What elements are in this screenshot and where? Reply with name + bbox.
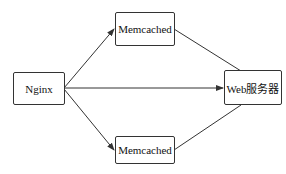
- node-memcached-top-label: Memcached: [118, 23, 172, 35]
- edge-nginx-to-memcached-top: [64, 29, 114, 88]
- node-memcached-bottom-label: Memcached: [118, 144, 172, 156]
- node-memcached-bottom: Memcached: [115, 136, 175, 164]
- node-nginx: Nginx: [13, 72, 65, 105]
- node-nginx-label: Nginx: [25, 83, 53, 95]
- edge-memcached-bottom-to-web-server: [174, 105, 241, 150]
- node-memcached-top: Memcached: [115, 12, 175, 46]
- edge-memcached-top-to-web-server: [174, 29, 241, 71]
- node-web-server: Web服务器: [224, 70, 282, 105]
- edge-nginx-to-memcached-bottom: [64, 89, 114, 150]
- node-web-server-label: Web服务器: [227, 80, 280, 96]
